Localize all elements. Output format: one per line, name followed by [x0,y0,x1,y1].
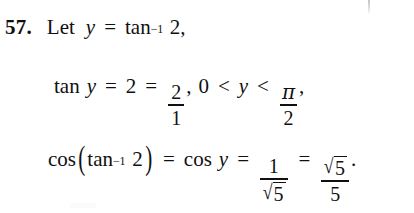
radicand: 5 [273,182,286,204]
variable-y: y [219,149,228,170]
exponent-inverse: −1 [113,155,125,167]
variable-y: y [86,17,95,38]
variable-y: y [239,76,248,97]
radical-sqrt: √ 5 [262,182,286,204]
comma: , [299,76,304,97]
fraction-numerator: 1 [267,156,281,178]
exponent-inverse: −1 [151,23,163,35]
value-2: 2 [126,76,137,97]
fraction-pi-over-two: π 2 [280,82,297,128]
fraction-numerator-pi: π [280,82,297,104]
math-line-3: cos ( tan −1 2 ) = cos y = 1 √ 5 = √ [48,149,356,197]
equals-sign: = [290,149,320,170]
equals-sign: = [136,76,166,97]
equals-sign: = [154,149,184,170]
argument-2: 2 [170,17,181,38]
less-than-sign: < [248,76,278,97]
scan-artifact-smudge [70,203,96,208]
fraction-root-five-over-five: √ 5 5 [321,156,349,204]
less-than-sign: < [209,76,239,97]
fraction-two-over-one: 2 1 [168,82,184,128]
radical-sqrt: √ 5 [323,156,347,178]
math-line-2: tan y = 2 = 2 1 , 0 < y < π 2 , [54,76,304,122]
fraction-denominator: √ 5 [260,180,288,204]
word-let: Let [47,17,75,38]
function-cos: cos [48,149,76,170]
fraction-denominator: 1 [169,106,183,128]
fraction-denominator: 2 [282,106,296,128]
radical-sign-icon: √ [263,182,273,204]
fraction-one-over-root-five: 1 √ 5 [260,156,288,204]
function-tan: tan [87,149,113,170]
value-zero: 0 [198,76,209,97]
comma: , [180,17,185,38]
variable-y: y [87,76,96,97]
fraction-numerator: √ 5 [321,156,349,180]
equals-sign: = [96,76,126,97]
function-cos: cos [184,149,212,170]
period: . [351,149,356,170]
math-line-1: Let 57. Let y = tan −1 2 , [5,17,186,38]
radicand: 5 [334,156,347,178]
function-tan: tan [54,76,80,97]
fraction-numerator: 2 [169,82,183,104]
function-tan: tan [125,17,151,38]
fraction-denominator: 5 [328,182,342,204]
comma: , [186,76,191,97]
document-page: Let 57. Let y = tan −1 2 , tan y = 2 = 2… [0,0,414,213]
radical-sign-icon: √ [324,156,334,178]
problem-number-label: 57. [5,17,32,38]
argument-2: 2 [132,149,143,170]
equals-sign: = [228,149,258,170]
scan-artifact-tick [368,0,370,13]
equals-sign: = [95,17,125,38]
